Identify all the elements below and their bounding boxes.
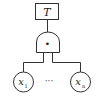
and-gate: • — [37, 32, 60, 52]
basic-event-subscript: 1 — [24, 83, 27, 89]
basic-event-x1: x 1 — [14, 72, 34, 92]
ellipsis: ··· — [45, 76, 54, 86]
and-gate-symbol: • — [45, 39, 50, 49]
basic-event-xn: x n — [71, 72, 91, 92]
basic-event-label: x — [18, 76, 24, 87]
connector-gate-to-xn — [53, 53, 81, 73]
basic-event-label: x — [75, 76, 81, 87]
top-event: T — [36, 4, 59, 20]
connector-gate-to-x1 — [24, 53, 44, 73]
fault-tree-diagram: T • x 1 ··· x n — [0, 0, 102, 105]
